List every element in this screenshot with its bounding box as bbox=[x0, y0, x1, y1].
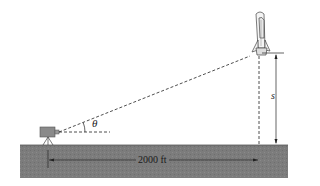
line-of-sight bbox=[59, 56, 250, 132]
height-label: s bbox=[271, 90, 275, 101]
distance-label: 2000 ft bbox=[136, 154, 169, 165]
angle-arc bbox=[83, 123, 85, 133]
rocket-icon bbox=[252, 12, 270, 55]
angle-label: θ bbox=[92, 117, 97, 129]
camera-icon bbox=[40, 127, 59, 145]
